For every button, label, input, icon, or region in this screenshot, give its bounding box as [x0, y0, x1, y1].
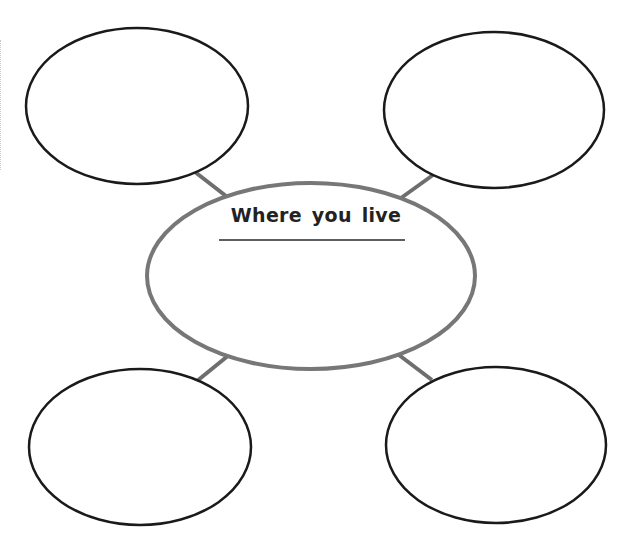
- connector-bottom-left: [197, 355, 229, 381]
- connector-bottom-right: [399, 355, 432, 380]
- node-bottom-left: [29, 369, 251, 525]
- center-title: Where you live: [196, 204, 436, 226]
- node-bottom-right: [386, 367, 606, 523]
- node-top-right: [384, 32, 604, 188]
- node-top-left: [26, 28, 248, 184]
- connector-top-right: [401, 175, 433, 198]
- web-diagram: [0, 0, 623, 549]
- connector-top-left: [195, 172, 226, 196]
